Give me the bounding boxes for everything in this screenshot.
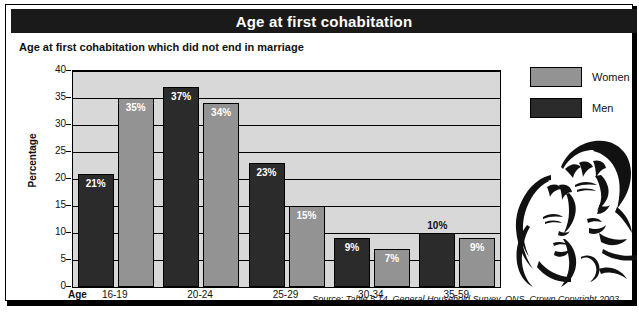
bar-women-20-24[interactable]: 34% [203, 103, 239, 287]
bar-men-35-59[interactable]: 10% [419, 233, 455, 287]
bar-women-35-59[interactable]: 9% [459, 238, 495, 287]
y-axis-tick-mark [66, 97, 71, 98]
x-axis-label-20-24: 20-24 [170, 289, 230, 300]
bar-value-label: 35% [119, 102, 153, 113]
bar-value-label: 9% [460, 242, 494, 253]
y-axis-tick-label: 5 [44, 254, 66, 264]
y-axis-title: Percentage [27, 121, 38, 201]
bar-value-label: 21% [79, 178, 113, 189]
chart-panel: Age at first cohabitation Age at first c… [5, 4, 633, 301]
x-axis-label-16-19: 16-19 [85, 289, 145, 300]
plot-area: 21%35%37%34%23%15%9%7%10%9% [72, 70, 501, 288]
bar-value-label: 7% [375, 253, 409, 264]
couple-line-art-illustration [503, 133, 639, 288]
y-axis-tick-mark [66, 178, 71, 179]
y-axis-tick-mark [66, 151, 71, 152]
bar-men-25-29[interactable]: 23% [249, 163, 285, 287]
bar-men-20-24[interactable]: 37% [163, 87, 199, 287]
y-axis-tick-label: 10 [44, 227, 66, 237]
page-title: Age at first cohabitation [236, 13, 413, 30]
chart-legend: Women Men [530, 67, 630, 129]
y-axis-tick-mark [66, 286, 71, 287]
y-axis-tick-label: 0 [44, 281, 66, 291]
bar-women-30-34[interactable]: 7% [374, 249, 410, 287]
bar-value-label: 34% [204, 107, 238, 118]
source-note: Source: Table 5.14, General Household Su… [312, 294, 619, 304]
y-axis-tick-label: 20 [44, 173, 66, 183]
bar-women-16-19[interactable]: 35% [118, 98, 154, 287]
y-axis-tick-label: 25 [44, 146, 66, 156]
bar-value-label: 37% [164, 91, 198, 102]
legend-label-men: Men [592, 102, 613, 114]
legend-label-women: Women [592, 71, 630, 83]
bar-value-label: 9% [335, 242, 369, 253]
gridline [73, 287, 500, 288]
y-axis-tick-label: 40 [44, 65, 66, 75]
bar-value-label: 10% [420, 220, 454, 231]
y-axis-tick-mark [66, 124, 71, 125]
gridline [73, 71, 500, 72]
y-axis-tick-label: 35 [44, 92, 66, 102]
x-axis-label-25-29: 25-29 [256, 289, 316, 300]
bar-value-label: 15% [290, 210, 324, 221]
x-axis-title: Age [68, 289, 87, 300]
y-axis-tick-label: 30 [44, 119, 66, 129]
legend-item-men: Men [530, 98, 630, 118]
chart-title-bar: Age at first cohabitation [11, 9, 637, 33]
chart-page: Age at first cohabitation Age at first c… [0, 0, 639, 316]
bar-value-label: 23% [250, 167, 284, 178]
legend-swatch-men-icon [530, 98, 582, 118]
chart-subtitle: Age at first cohabitation which did not … [19, 41, 304, 53]
legend-item-women: Women [530, 67, 630, 87]
legend-swatch-women-icon [530, 67, 582, 87]
y-axis-tick-mark [66, 232, 71, 233]
bar-men-30-34[interactable]: 9% [334, 238, 370, 287]
y-axis-tick-mark [66, 205, 71, 206]
y-axis-tick-mark [66, 259, 71, 260]
y-axis-tick-mark [66, 70, 71, 71]
y-axis-tick-label: 15 [44, 200, 66, 210]
bar-men-16-19[interactable]: 21% [78, 174, 114, 287]
bar-women-25-29[interactable]: 15% [289, 206, 325, 287]
